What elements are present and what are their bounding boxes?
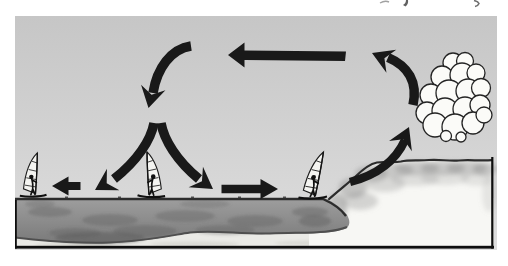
cropped-text-fragments [0,0,508,8]
sea-breeze-diagram [15,16,497,250]
frame-left-border [15,200,17,249]
frame-right-border [491,157,493,249]
frame-bottom-border [15,246,494,249]
scanned-page [0,0,508,266]
